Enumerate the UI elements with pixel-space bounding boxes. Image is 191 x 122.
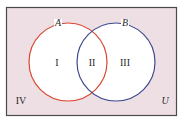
- set-a-label: A: [54, 17, 62, 28]
- region-iv-label: IV: [16, 95, 27, 106]
- set-b-label: B: [122, 17, 128, 28]
- region-ii-label: II: [89, 57, 96, 68]
- region-i-label: I: [55, 57, 58, 68]
- universe-label: U: [161, 95, 169, 106]
- region-iii-label: III: [120, 57, 130, 68]
- venn-diagram: A B I II III IV U: [0, 0, 191, 122]
